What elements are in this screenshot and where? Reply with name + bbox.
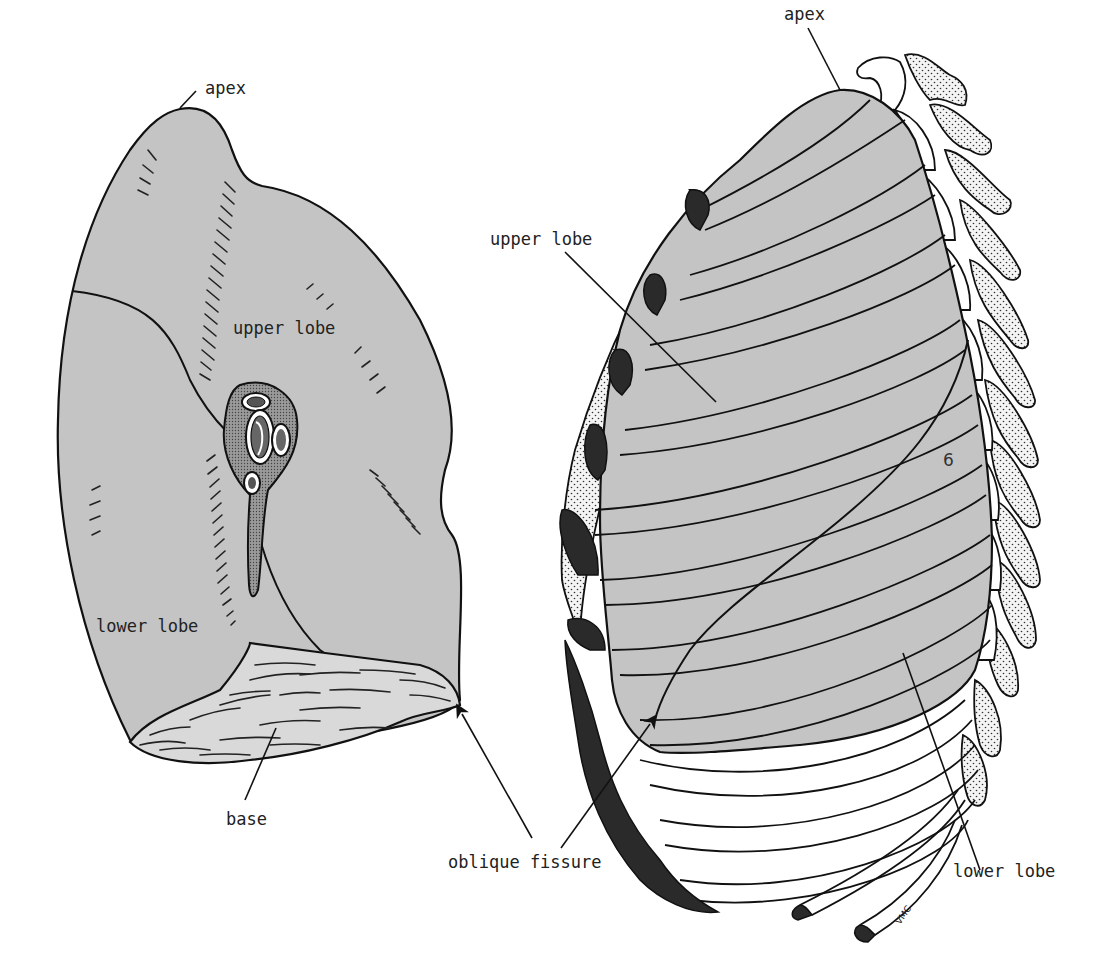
oblique-fissure-label: oblique fissure: [448, 852, 602, 872]
rib-number-label: 6: [943, 450, 954, 470]
left-lung-medial-view: apex upper lobe lower lobe base: [58, 78, 461, 829]
left-apex-leader: [180, 91, 196, 108]
right-apex-leader: [808, 28, 840, 90]
lung-anatomy-figure: apex upper lobe lower lobe base: [0, 0, 1098, 961]
right-upper-lobe-label: upper lobe: [490, 229, 592, 249]
left-base-label: base: [226, 809, 267, 829]
right-lower-lobe-label: lower lobe: [953, 861, 1055, 881]
right-apex-label: apex: [784, 4, 825, 24]
left-fissure-arrow: [462, 714, 532, 838]
left-lower-lobe-label: lower lobe: [96, 616, 198, 636]
left-upper-lobe-label: upper lobe: [233, 318, 335, 338]
right-lung-lateral-view: apex upper lobe lower lobe 6 VMC: [490, 4, 1055, 942]
left-apex-label: apex: [205, 78, 246, 98]
